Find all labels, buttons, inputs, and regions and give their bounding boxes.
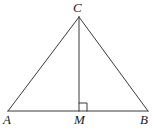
segment-AC: [8, 17, 79, 111]
triangle-group: [8, 17, 148, 111]
triangle-diagram-svg: [0, 0, 158, 130]
vertex-label-C: C: [73, 1, 82, 14]
vertex-label-M: M: [74, 113, 85, 126]
vertex-label-A: A: [3, 113, 11, 126]
right-angle-marker-icon: [79, 103, 87, 111]
geometry-figure: C A M B: [0, 0, 158, 130]
segment-CB: [79, 17, 148, 111]
vertex-label-B: B: [140, 113, 148, 126]
